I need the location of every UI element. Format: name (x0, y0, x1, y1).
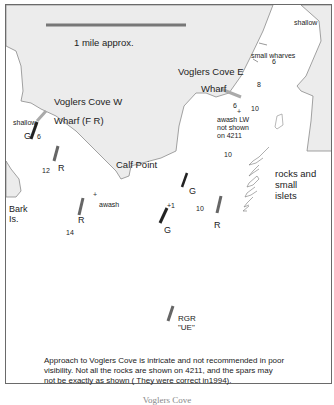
rock-cross-awash: + (93, 191, 97, 198)
small-wharf-1 (259, 43, 267, 45)
rocks-cluster (243, 147, 269, 211)
label-awash: awash (99, 201, 119, 208)
land-east (297, 5, 332, 151)
scale-label: 1 mile approx. (74, 38, 134, 48)
land-bark-island (6, 161, 21, 197)
sounding-6-w: 6 (37, 133, 41, 140)
spar-label-r1: R (58, 164, 65, 173)
spar-r3 (217, 196, 221, 213)
sounding-12: 12 (42, 167, 50, 174)
spar-g2 (182, 173, 187, 187)
label-rocks-3: islets (275, 191, 297, 201)
label-awash-lw-2: not shown (217, 124, 249, 131)
spar-rgr (168, 306, 173, 321)
sounding-6-rock: 6 (233, 102, 237, 109)
label-rocks-1: rocks and (275, 169, 316, 179)
spar-g3 (160, 208, 167, 223)
sounding-10-c: 10 (196, 205, 204, 212)
place-bark-is-2: Is. (9, 215, 19, 224)
spar-r2 (79, 198, 83, 215)
small-wharf-2 (253, 59, 258, 62)
sounding-10-b: 10 (224, 151, 232, 158)
label-awash-lw-3: on 4211 (217, 132, 242, 139)
sounding-10-a: 10 (251, 105, 259, 112)
place-voglers-cove-e: Voglers Cove E (178, 67, 243, 77)
spar-label-g3: G (164, 226, 171, 235)
rock-cross-lw: + (237, 108, 241, 115)
place-wharf: Wharf (201, 84, 226, 94)
spar-r1 (54, 146, 58, 161)
wharf-w-line (37, 111, 46, 121)
label-rocks-2: small (275, 180, 297, 190)
spar-label-r3: R (214, 221, 221, 230)
sounding-6-e: 6 (272, 58, 276, 65)
sounding-8: 8 (257, 81, 261, 88)
chart-frame: + + 1 mile approx. Voglers Cove W Wharf … (5, 4, 332, 384)
islet (275, 114, 283, 129)
note-line-3: not be exactly as shown ( They were corr… (44, 376, 304, 386)
label-shallow-ne: shallow (294, 19, 317, 26)
label-shallow-w: shallow (13, 119, 36, 126)
sounding-14: 14 (66, 229, 74, 236)
approach-note: Approach to Voglers Cove is intricate an… (44, 356, 304, 386)
place-wharf-fr: Wharf (F R) (54, 116, 104, 126)
spar-name-ue: "UE" (178, 324, 195, 332)
spar-label-r2: R (78, 216, 85, 225)
place-voglers-cove-w: Voglers Cove W (54, 97, 122, 107)
land-voglers-cove (6, 5, 273, 179)
figure-caption: Voglers Cove (0, 395, 334, 405)
note-line-1: Approach to Voglers Cove is intricate an… (44, 356, 304, 366)
place-bark-is-1: Bark (9, 205, 28, 214)
place-calf-point: Calf Point (116, 160, 157, 170)
spar-label-rgr: RGR (178, 315, 196, 323)
sounding-plus1: +1 (167, 202, 175, 209)
spar-label-g2: G (189, 187, 196, 196)
note-line-2: visibility. Not all the rocks are shown … (44, 366, 304, 376)
spar-label-g1: G (24, 132, 31, 141)
label-awash-lw-1: awash LW (217, 116, 249, 123)
